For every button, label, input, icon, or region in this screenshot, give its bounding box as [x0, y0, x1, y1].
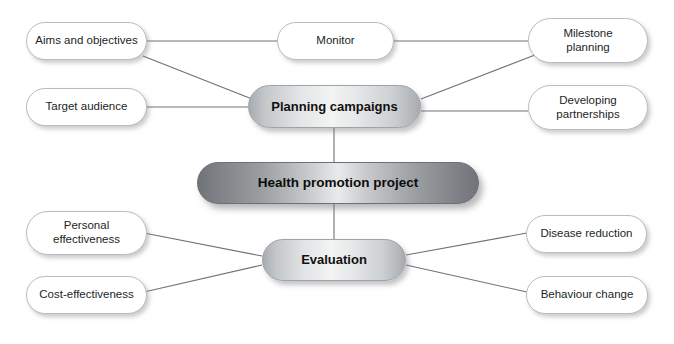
node-behaviour-change[interactable]: Behaviour change — [526, 276, 648, 314]
link-evaluation-cost — [144, 265, 262, 292]
node-planning-campaigns[interactable]: Planning campaigns — [248, 85, 421, 128]
node-milestone-planning[interactable]: Milestoneplanning — [528, 18, 648, 63]
node-label: Personaleffectiveness — [53, 219, 120, 246]
node-label: Evaluation — [301, 252, 367, 267]
link-evaluation-behaviour — [406, 265, 527, 292]
node-label: Developingpartnerships — [556, 94, 619, 121]
node-disease-reduction[interactable]: Disease reduction — [526, 215, 647, 253]
node-label: Monitor — [316, 34, 354, 48]
node-label: Cost-effectiveness — [39, 288, 133, 302]
mind-map-canvas: Health promotion project Planning campai… — [0, 0, 674, 344]
node-label: Planning campaigns — [271, 99, 397, 114]
node-label: Aims and objectives — [35, 34, 137, 48]
node-target-audience[interactable]: Target audience — [26, 88, 147, 126]
node-label: Health promotion project — [258, 175, 419, 191]
link-planning-milestone — [421, 55, 535, 99]
node-personal-effectiveness[interactable]: Personaleffectiveness — [26, 211, 147, 255]
node-label: Disease reduction — [540, 227, 632, 241]
node-developing-partnerships[interactable]: Developingpartnerships — [528, 85, 648, 130]
node-label: Milestoneplanning — [563, 27, 612, 54]
node-label: Target audience — [46, 100, 128, 114]
node-health-promotion-project[interactable]: Health promotion project — [197, 162, 479, 204]
node-cost-effectiveness[interactable]: Cost-effectiveness — [26, 276, 147, 314]
node-label: Behaviour change — [541, 288, 634, 302]
link-planning-aims — [143, 56, 252, 99]
link-evaluation-disease — [406, 233, 527, 255]
link-evaluation-personal — [144, 233, 262, 256]
node-monitor[interactable]: Monitor — [277, 22, 394, 60]
node-aims-and-objectives[interactable]: Aims and objectives — [26, 22, 147, 60]
node-evaluation[interactable]: Evaluation — [262, 239, 406, 281]
